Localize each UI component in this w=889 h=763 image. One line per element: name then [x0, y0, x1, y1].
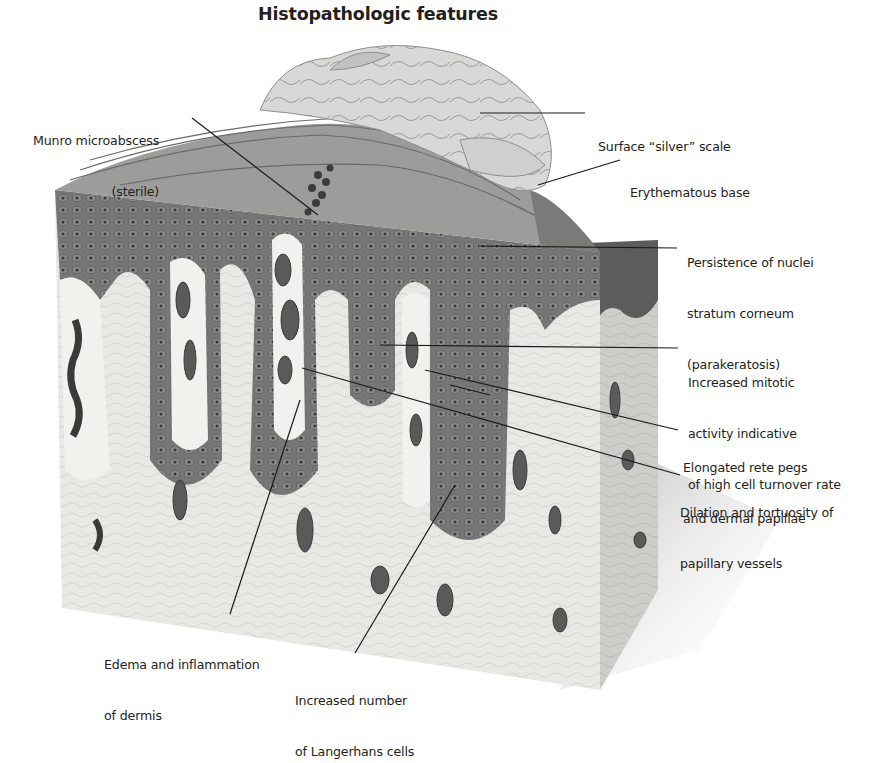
label-line: Increased mitotic	[688, 374, 841, 391]
label-line: of dermis	[104, 707, 260, 724]
label-langerhans-cells: Increased number of Langerhans cells	[295, 658, 414, 763]
label-line: Munro microabscess	[33, 132, 159, 149]
label-dilation-tortuosity: Dilation and tortuosity of papillary ves…	[680, 470, 833, 606]
label-line: Edema and inflammation	[104, 656, 260, 673]
label-line: stratum corneum	[687, 305, 814, 322]
label-munro-microabscess: Munro microabscess (sterile)	[33, 98, 159, 234]
label-edema-inflammation: Edema and inflammation of dermis	[104, 622, 260, 758]
label-line: of Langerhans cells	[295, 743, 414, 760]
label-line: papillary vessels	[680, 555, 833, 572]
label-line: Erythematous base	[630, 184, 750, 201]
diagram-title: Histopathologic features	[258, 4, 498, 24]
label-line: Dilation and tortuosity of	[680, 504, 833, 521]
label-line: Persistence of nuclei	[687, 254, 814, 271]
erythematous-base	[530, 190, 600, 252]
label-line: Increased number	[295, 692, 414, 709]
label-line: (sterile)	[33, 183, 159, 200]
